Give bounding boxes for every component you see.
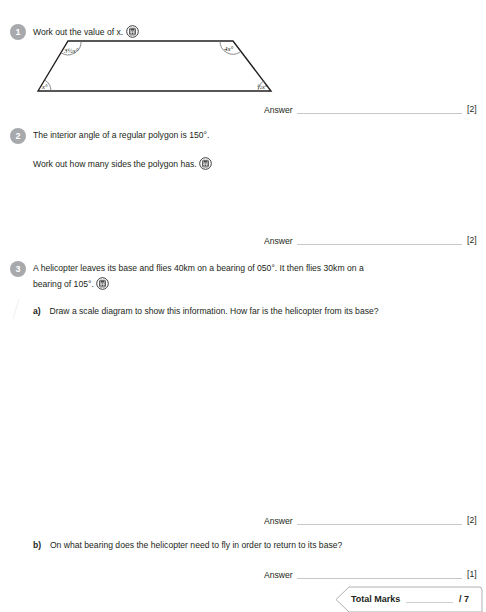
angle-label-top-left: 3½x° [63, 47, 79, 55]
calculator-icon [96, 277, 109, 290]
question-3-line-2-group: bearing of 105°. [33, 277, 109, 291]
question-2-line-2: Work out how many sides the polygon has. [33, 159, 197, 169]
part-label-b: b) [33, 540, 41, 550]
total-marks-out-of: / 7 [459, 594, 469, 604]
answer-label-q3b: Answer [264, 570, 293, 580]
answer-line-q2[interactable] [297, 244, 462, 245]
answer-row-q2: Answer [264, 234, 462, 248]
total-marks-line[interactable] [406, 602, 453, 603]
marks-q3b: [1] [467, 569, 477, 579]
worksheet-page: 1 Work out the value of x. [0, 0, 486, 612]
question-3-part-a: a) Draw a scale diagram to show this inf… [33, 305, 379, 318]
answer-label-q3a: Answer [264, 516, 293, 526]
answer-row-q1: Answer [264, 103, 462, 117]
question-2-line-1: The interior angle of a regular polygon … [33, 129, 209, 142]
answer-label-q1: Answer [264, 105, 293, 115]
marks-q2: [2] [467, 235, 477, 245]
answer-line-q1[interactable] [297, 113, 462, 114]
calculator-icon [199, 157, 212, 170]
total-marks-label: Total Marks [351, 594, 400, 604]
answer-row-q3b: Answer [264, 568, 462, 582]
answer-line-q3a[interactable] [297, 524, 462, 525]
question-3-line-1: A helicopter leaves its base and flies 4… [33, 262, 364, 275]
angle-label-top-right: 4x° [224, 45, 234, 53]
answer-line-q3b[interactable] [297, 578, 462, 579]
marks-q1: [2] [467, 104, 477, 114]
question-number-badge-2: 2 [10, 128, 26, 144]
question-number-badge-3: 3 [10, 261, 26, 277]
question-3-line-2: bearing of 105°. [33, 279, 94, 289]
angle-label-bottom-left: x° [41, 83, 48, 90]
part-label-a: a) [33, 306, 41, 316]
answer-row-q3a: Answer [264, 514, 462, 528]
answer-label-q2: Answer [264, 236, 293, 246]
question-number-badge-1: 1 [10, 24, 26, 40]
trapezium-diagram: 3½x° 4x° x° ½x° [28, 36, 278, 102]
margin-artifact [11, 298, 21, 320]
total-marks-box: Total Marks / 7 [333, 586, 483, 612]
part-b-text: On what bearing does the helicopter need… [50, 540, 342, 550]
part-a-text: Draw a scale diagram to show this inform… [49, 306, 378, 316]
question-3-part-b: b) On what bearing does the helicopter n… [33, 539, 342, 552]
question-2-line-2-group: Work out how many sides the polygon has. [33, 157, 212, 171]
marks-q3a: [2] [467, 515, 477, 525]
angle-label-bottom-right: ½x° [257, 83, 268, 90]
